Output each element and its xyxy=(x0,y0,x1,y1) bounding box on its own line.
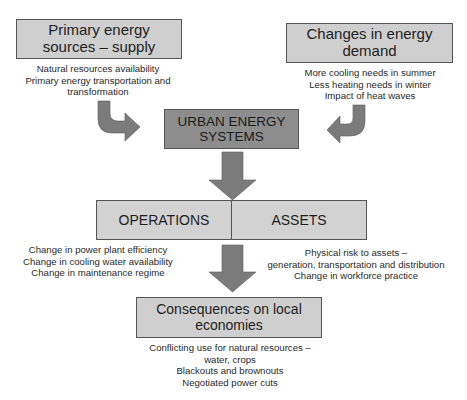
supply-notes: Natural resources availability Primary e… xyxy=(18,63,178,98)
demand-note: Less heating needs in winter xyxy=(290,79,450,91)
demand-notes: More cooling needs in summer Less heatin… xyxy=(290,67,450,102)
supply-box: Primary energy sources – supply xyxy=(16,19,182,59)
assets-cell: ASSETS xyxy=(231,201,366,239)
operations-cell: OPERATIONS xyxy=(97,201,231,239)
demand-to-core-arrow xyxy=(327,105,365,143)
demand-note: More cooling needs in summer xyxy=(290,67,450,79)
operations-label: OPERATIONS xyxy=(119,212,210,228)
consequences-note: water, crops xyxy=(140,354,320,366)
assets-note: Change in workforce practice xyxy=(262,270,450,282)
operations-note: Change in maintenance regime xyxy=(14,267,182,279)
supply-note: transformation xyxy=(18,86,178,98)
core-title-line-1: URBAN ENERGY xyxy=(177,114,285,129)
assets-notes: Physical risk to assets – generation, tr… xyxy=(262,247,450,282)
consequences-notes: Conflicting use for natural resources – … xyxy=(140,342,320,389)
consequences-note: Conflicting use for natural resources – xyxy=(140,342,320,354)
operations-notes: Change in power plant efficiency Change … xyxy=(14,244,182,279)
consequences-title-line-2: economies xyxy=(156,318,302,334)
operations-note: Change in cooling water availability xyxy=(14,256,182,268)
demand-title-line-2: demand xyxy=(307,43,433,60)
consequences-note: Negotiated power cuts xyxy=(140,377,320,389)
consequences-box: Consequences on local economies xyxy=(136,297,322,338)
supply-note: Natural resources availability xyxy=(18,63,178,75)
supply-note: Primary energy transportation and xyxy=(18,75,178,87)
urban-energy-systems-box: URBAN ENERGY SYSTEMS xyxy=(164,109,299,149)
supply-to-core-arrow xyxy=(98,101,140,141)
demand-note: Impact of heat waves xyxy=(290,90,450,102)
assets-note: generation, transportation and distribut… xyxy=(262,259,450,271)
operations-assets-box: OPERATIONS ASSETS xyxy=(96,200,367,240)
consequences-title-line-1: Consequences on local xyxy=(156,302,302,318)
assets-label: ASSETS xyxy=(271,212,326,228)
assets-note: Physical risk to assets – xyxy=(262,247,450,259)
supply-title-line-1: Primary energy xyxy=(43,22,156,39)
consequences-note: Blackouts and brownouts xyxy=(140,365,320,377)
operations-note: Change in power plant efficiency xyxy=(14,244,182,256)
demand-title-line-1: Changes in energy xyxy=(307,26,433,43)
ops-to-consequences-arrow xyxy=(209,245,256,292)
core-to-ops-arrow xyxy=(209,152,256,200)
demand-box: Changes in energy demand xyxy=(286,23,453,63)
core-title-line-2: SYSTEMS xyxy=(177,129,285,144)
supply-title-line-2: sources – supply xyxy=(43,39,156,56)
